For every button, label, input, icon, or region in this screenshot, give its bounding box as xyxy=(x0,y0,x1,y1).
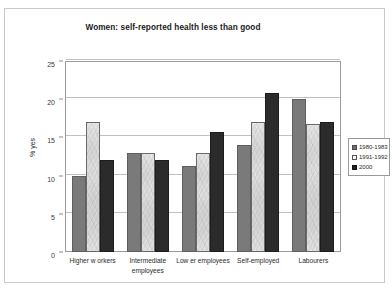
bar-group xyxy=(175,61,230,252)
legend-label: 1991-1992 xyxy=(359,154,388,160)
figure-frame: Women: self-reported health less than go… xyxy=(4,8,385,283)
legend-swatch-icon xyxy=(352,155,357,160)
bar xyxy=(182,166,196,252)
legend-item: 2000 xyxy=(352,162,386,172)
bar-group xyxy=(65,61,120,252)
bar xyxy=(265,93,279,252)
bar-group xyxy=(231,61,286,252)
bar xyxy=(251,122,265,252)
bar xyxy=(100,160,114,252)
y-tick-mark-0 xyxy=(59,252,63,253)
legend-label: 2000 xyxy=(359,164,372,170)
bar xyxy=(86,122,100,252)
bar-group xyxy=(120,61,175,252)
bar xyxy=(141,153,155,252)
chart-legend: 1980-19831991-19922000 xyxy=(348,138,390,176)
bar xyxy=(320,122,334,252)
x-axis-label: Labourers xyxy=(280,256,347,266)
bar xyxy=(196,153,210,252)
bar xyxy=(306,124,320,252)
y-tick-mark-15 xyxy=(59,137,63,138)
bar xyxy=(127,153,141,252)
bar xyxy=(210,132,224,252)
y-tick-mark-20 xyxy=(59,99,63,100)
y-tick-mark-5 xyxy=(59,213,63,214)
bar xyxy=(72,176,86,252)
bar xyxy=(237,145,251,252)
legend-swatch-icon xyxy=(352,165,357,170)
y-axis-ticks: 0510152025 xyxy=(5,61,63,252)
y-tick-mark-25 xyxy=(59,61,63,62)
legend-item: 1991-1992 xyxy=(352,152,386,162)
x-axis-labels: Higher w orkersIntermediateemployeesLow … xyxy=(65,256,341,288)
bar xyxy=(155,160,169,252)
gridline-25 xyxy=(66,59,340,60)
legend-swatch-icon xyxy=(352,145,357,150)
bar xyxy=(292,99,306,252)
y-tick-mark-10 xyxy=(59,175,63,176)
legend-item: 1980-1983 xyxy=(352,142,386,152)
legend-label: 1980-1983 xyxy=(359,144,388,150)
bar-group xyxy=(286,61,341,252)
bars-layer xyxy=(65,61,341,252)
chart-title: Women: self-reported health less than go… xyxy=(5,23,341,32)
